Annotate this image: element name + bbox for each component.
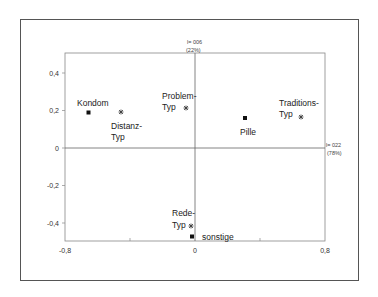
point-label-kondom: Kondom xyxy=(77,98,109,108)
point-label-rede-typ: Typ xyxy=(172,220,186,230)
asterisk-marker-traditions xyxy=(299,115,304,120)
x-axis: -0,8 0 0,8 xyxy=(59,238,330,254)
x-tick-label: -0,8 xyxy=(59,247,71,254)
horizontal-axis-inertia: l= 022 xyxy=(326,142,341,148)
horizontal-axis-percent: (78%) xyxy=(327,150,342,156)
y-tick-label: 0,4 xyxy=(49,70,59,77)
point-label-traditions-typ: Typ xyxy=(279,109,293,119)
asterisk-markers xyxy=(119,106,304,229)
vertical-axis-percent: (22%) xyxy=(186,47,201,53)
point-label-pille: Pille xyxy=(240,127,256,137)
asterisk-marker-rede xyxy=(189,224,194,229)
x-tick-label: 0 xyxy=(193,247,197,254)
point-label-problem-typ: Typ xyxy=(162,102,176,112)
correspondence-plot: 0,4 0,2 0 -0,2 -0,4 -0,8 0 0,8 l= 006 (2… xyxy=(0,0,378,297)
point-label-problem: Problem- xyxy=(162,91,197,101)
square-marker-sonstige xyxy=(190,235,194,239)
square-marker-pille xyxy=(243,116,247,120)
y-axis: 0,4 0,2 0 -0,2 -0,4 xyxy=(47,70,65,227)
y-tick-label: -0,4 xyxy=(47,220,59,227)
square-marker-kondom xyxy=(87,111,91,115)
asterisk-marker-distanz xyxy=(119,110,124,115)
vertical-axis-inertia: l= 006 xyxy=(187,39,202,45)
x-tick-label: 0,8 xyxy=(320,247,330,254)
point-label-distanz: Distanz- xyxy=(111,121,142,131)
point-label-distanz-typ: Typ xyxy=(111,132,125,142)
y-tick-label: -0,2 xyxy=(47,182,59,189)
point-label-rede: Rede- xyxy=(172,208,195,218)
point-label-sonstige: sonstige xyxy=(202,232,234,242)
point-label-traditions: Traditions- xyxy=(279,98,319,108)
y-tick-label: 0,2 xyxy=(49,107,59,114)
asterisk-marker-problem xyxy=(184,106,189,111)
y-tick-label: 0 xyxy=(55,145,59,152)
